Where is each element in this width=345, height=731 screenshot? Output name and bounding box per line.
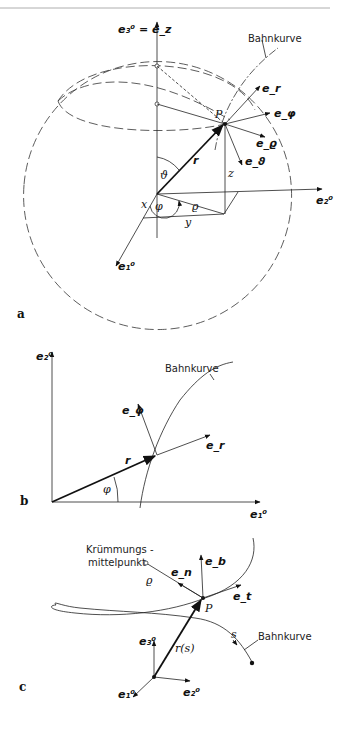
e2-axis: [154, 677, 190, 681]
e-t-label: e_t: [233, 590, 252, 603]
curve-label: Bahnkurve: [248, 33, 302, 44]
curvature-center-label-2: mittelpunkt: [88, 557, 146, 568]
r-label: r: [193, 154, 199, 167]
vector-e-b: [201, 555, 203, 598]
point-p: [223, 122, 227, 126]
point-p-label: P: [214, 108, 223, 121]
rho-line: [157, 194, 224, 214]
panel-a: e₃⁰ = e_z Bahnkurve P e_r e_φ e_ϱ e_ϑ r …: [17, 22, 333, 330]
e-phi-label: e_φ: [122, 404, 144, 417]
curve-label: Bahnkurve: [165, 363, 219, 374]
e1-axis: [133, 677, 154, 697]
meridian-arc: [58, 82, 230, 120]
vector-e-theta: [225, 124, 242, 165]
phi-arc: [114, 477, 118, 502]
figure-canvas: e₃⁰ = e_z Bahnkurve P e_r e_φ e_ϱ e_ϑ r …: [0, 0, 345, 731]
vector-e-phi: [225, 113, 270, 124]
rho-label: ϱ: [146, 574, 153, 587]
x-label: x: [141, 198, 148, 211]
curve-label: Bahnkurve: [258, 631, 312, 642]
curve-label-leader: [244, 640, 258, 650]
curve-label-leader: [210, 374, 214, 380]
theta-label: ϑ: [160, 169, 168, 182]
point-p-label: P: [204, 602, 213, 615]
axis-y-label: e₂⁰: [316, 194, 333, 207]
box-edge: [224, 192, 238, 214]
e-theta-label: e_ϑ: [245, 155, 266, 168]
trajectory-curve: [215, 48, 278, 150]
axis-z-label: e₃⁰ = e_z: [118, 23, 172, 36]
curvature-center-label-1: Krümmungs -: [86, 544, 154, 555]
y-label: y: [184, 216, 192, 229]
panel-a-label: a: [17, 307, 25, 321]
e-b-label: e_b: [205, 555, 226, 568]
phi-label: φ: [155, 200, 163, 213]
vector-e-n: [178, 583, 203, 598]
panel-c: Krümmungs - mittelpunkt ϱ e_n e_b e_t P …: [19, 538, 312, 701]
axis-x-label: e₁⁰: [250, 508, 267, 521]
z-label: z: [227, 167, 234, 180]
axis-x-label: e₁⁰: [118, 260, 135, 273]
arc-length-label: s: [231, 628, 237, 641]
axis-x-label: e₁⁰: [118, 688, 135, 701]
panel-b: e₂⁰ e₁⁰ Bahnkurve e_φ e_r r φ b: [20, 350, 267, 521]
vector-e-r: [157, 435, 210, 455]
axis-y-label: e₂⁰: [36, 350, 53, 363]
position-vector-r: [157, 125, 223, 194]
e-phi-label: e_φ: [274, 107, 296, 120]
r-s-label: r(s): [175, 642, 195, 655]
phi-label: φ: [103, 483, 111, 496]
e-r-label: e_r: [206, 439, 225, 452]
e-rho-label: e_ϱ: [256, 137, 277, 150]
e-r-label: e_r: [262, 82, 281, 95]
rho-label: ϱ: [192, 200, 199, 213]
r-label: r: [125, 454, 131, 467]
panel-b-label: b: [20, 494, 28, 508]
axis-y-label: e₂⁰: [183, 686, 200, 699]
y-axis: [157, 189, 322, 194]
trajectory-curve: [140, 362, 233, 508]
panel-c-label: c: [19, 680, 26, 694]
axis-z-label: e₃⁰: [139, 635, 156, 648]
x-axis: [116, 194, 157, 266]
vector-e-rho: [225, 124, 265, 137]
curve-end-point: [250, 661, 254, 665]
e-n-label: e_n: [171, 566, 192, 579]
position-vector-r: [154, 600, 201, 677]
latitude-circle: [58, 101, 225, 131]
